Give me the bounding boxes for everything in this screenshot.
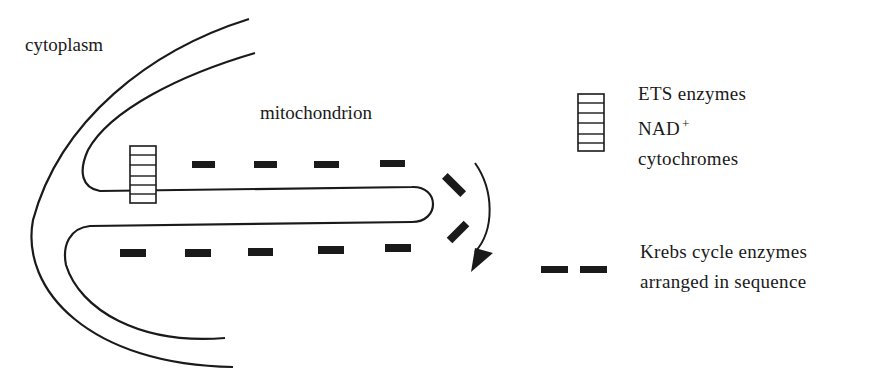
mitochondrion-label: mitochondrion — [260, 103, 372, 122]
legend-krebs-line2: arranged in sequence — [640, 267, 807, 297]
krebs-dashes-lower — [120, 244, 411, 257]
diagram-canvas — [0, 0, 879, 389]
legend-krebs: Krebs cycle enzymes arranged in sequence — [640, 237, 807, 297]
inner-membrane-upper — [65, 53, 433, 339]
cytoplasm-label: cytoplasm — [25, 35, 103, 54]
legend-dash-pair-icon — [541, 266, 607, 273]
legend-ets-line3: cytochromes — [638, 144, 746, 174]
legend-ets: ETS enzymes NAD+ cytochromes — [638, 79, 746, 174]
legend-krebs-line1: Krebs cycle enzymes — [640, 237, 807, 267]
legend-ets-line2: NAD+ — [638, 109, 746, 144]
krebs-dashes-upper — [192, 160, 405, 168]
legend-ets-line1: ETS enzymes — [638, 79, 746, 109]
nad-text: NAD — [638, 118, 680, 139]
mitochondrion-diagram: cytoplasm mitochondrion ETS enzymes NAD+… — [0, 0, 879, 389]
ets-striped-box — [130, 146, 156, 203]
legend-striped-box-icon — [578, 94, 604, 151]
nad-plus-superscript: + — [682, 116, 690, 131]
krebs-dashes-turn — [442, 173, 469, 243]
flow-arrow-icon — [471, 163, 493, 272]
